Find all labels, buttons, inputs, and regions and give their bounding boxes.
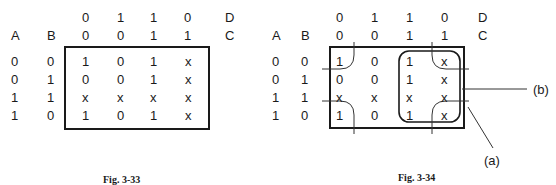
cell: 0 <box>371 72 378 87</box>
header-d-1: 1 <box>371 10 378 25</box>
table-row: 0 0 1 0 1 x <box>11 54 192 69</box>
header-d-2: 1 <box>406 10 413 25</box>
cell: x <box>441 72 448 87</box>
header-d-1: 1 <box>117 10 124 25</box>
header-c-3: 1 <box>441 28 448 43</box>
table-row: 0 1 0 0 1 x <box>11 72 192 87</box>
row-label-a: 1 <box>272 90 279 105</box>
header-c-1: 0 <box>371 28 378 43</box>
row-label-a: 0 <box>11 72 18 87</box>
row-label-a: 0 <box>272 54 279 69</box>
row-var-label-a: A <box>272 28 281 43</box>
header-c-0: 0 <box>336 28 343 43</box>
cell: x <box>117 90 124 105</box>
figure-3-33: D C A B 0 1 1 0 0 0 1 1 0 0 1 0 1 x 0 1 … <box>11 10 234 185</box>
header-c-1: 0 <box>117 28 124 43</box>
header-d-3: 0 <box>441 10 448 25</box>
cell: 1 <box>336 54 343 69</box>
col-var-label-d: D <box>478 10 487 25</box>
table-row: 1 0 1 0 1 x <box>272 108 448 123</box>
row-label-b: 1 <box>301 90 308 105</box>
figure-caption: Fig. 3-34 <box>398 172 435 183</box>
header-c-2: 1 <box>406 28 413 43</box>
cell: x <box>441 90 448 105</box>
cell: 1 <box>82 108 89 123</box>
figure-caption: Fig. 3-33 <box>103 174 140 185</box>
header-d-0: 0 <box>336 10 343 25</box>
cell: 1 <box>150 72 157 87</box>
figure-3-34: D C A B 0 1 1 0 0 0 1 1 0 0 1 <box>272 10 549 183</box>
leader-line-a <box>468 107 493 148</box>
row-label-a: 0 <box>272 72 279 87</box>
row-label-b: 0 <box>301 54 308 69</box>
row-var-label-b: B <box>301 28 310 43</box>
cell: 0 <box>117 54 124 69</box>
cell: 1 <box>150 108 157 123</box>
table-row: 0 1 0 0 1 x <box>272 72 448 87</box>
cell: x <box>441 54 448 69</box>
col-headers-d: 0 1 1 0 <box>336 10 448 25</box>
header-c-3: 1 <box>184 28 191 43</box>
header-d-3: 0 <box>184 10 191 25</box>
cell: x <box>185 72 192 87</box>
row-label-a: 1 <box>11 108 18 123</box>
row-var-label-b: B <box>47 28 56 43</box>
cell: x <box>82 90 89 105</box>
cell: x <box>336 90 343 105</box>
cell: 0 <box>371 108 378 123</box>
header-c-2: 1 <box>150 28 157 43</box>
cell: 0 <box>82 72 89 87</box>
annotation-b: (b) <box>533 82 549 97</box>
header-d-2: 1 <box>150 10 157 25</box>
cell: x <box>371 90 378 105</box>
row-label-a: 1 <box>11 90 18 105</box>
cell: 1 <box>82 54 89 69</box>
cell: x <box>441 108 448 123</box>
row-label-a: 0 <box>11 54 18 69</box>
col-headers-d: 0 1 1 0 <box>82 10 191 25</box>
row-label-b: 0 <box>301 108 308 123</box>
annotation-a: (a) <box>484 153 500 168</box>
cell: 1 <box>406 72 413 87</box>
header-d-0: 0 <box>82 10 89 25</box>
cell: 0 <box>336 72 343 87</box>
cell: 1 <box>150 54 157 69</box>
table-row: 0 0 1 0 1 x <box>272 54 448 69</box>
cell: x <box>185 90 192 105</box>
col-headers-c: 0 0 1 1 <box>82 28 191 43</box>
row-label-b: 1 <box>47 72 54 87</box>
cell: 1 <box>336 108 343 123</box>
cell: 1 <box>406 54 413 69</box>
kmap-figures: D C A B 0 1 1 0 0 0 1 1 0 0 1 0 1 x 0 1 … <box>0 0 556 185</box>
cell: x <box>150 90 157 105</box>
row-var-label-a: A <box>11 28 20 43</box>
cell: 0 <box>371 54 378 69</box>
table-row: 1 1 x x x x <box>272 90 448 105</box>
row-label-b: 0 <box>47 108 54 123</box>
cell: x <box>406 90 413 105</box>
row-label-b: 0 <box>47 54 54 69</box>
col-headers-c: 0 0 1 1 <box>336 28 448 43</box>
table-row: 1 0 1 0 1 x <box>11 108 192 123</box>
cell: x <box>185 54 192 69</box>
cell: x <box>185 108 192 123</box>
table-row: 1 1 x x x x <box>11 90 192 105</box>
cell: 0 <box>117 108 124 123</box>
header-c-0: 0 <box>82 28 89 43</box>
cell: 1 <box>406 108 413 123</box>
col-var-label-c: C <box>225 28 234 43</box>
row-label-b: 1 <box>47 90 54 105</box>
col-var-label-c: C <box>478 28 487 43</box>
col-var-label-d: D <box>225 10 234 25</box>
row-label-a: 1 <box>272 108 279 123</box>
cell: 0 <box>117 72 124 87</box>
row-label-b: 1 <box>301 72 308 87</box>
